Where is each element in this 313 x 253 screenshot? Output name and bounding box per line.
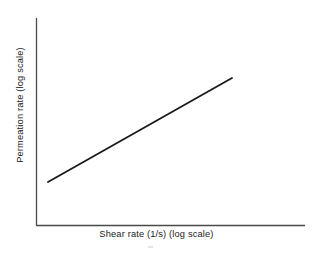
y-axis-label: Permeation rate (log scale) [15,47,25,163]
chart-plot-area [0,0,313,253]
scan-artifact-speck [148,246,153,248]
data-line-permeation-rate [48,78,232,182]
x-axis-label: Shear rate (1/s) (log scale) [0,229,313,239]
figure-canvas: Shear rate (1/s) (log scale) Permeation … [0,0,313,253]
